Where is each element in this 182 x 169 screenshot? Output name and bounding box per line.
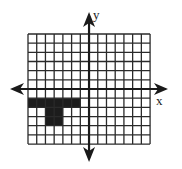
grid-svg [0, 0, 182, 169]
coordinate-plane: y x [0, 0, 182, 169]
x-axis-label: x [156, 94, 163, 107]
y-axis-label: y [93, 8, 100, 21]
